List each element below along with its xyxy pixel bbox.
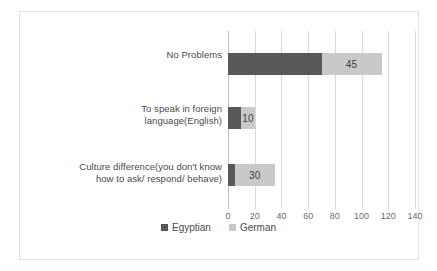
category-label-line: how to ask/ respond/ behave): [79, 173, 222, 185]
category-label-culture-difference: Culture difference(you don't know how to…: [79, 161, 222, 185]
legend-item-german[interactable]: German: [229, 222, 276, 233]
bar-segment-egyptian[interactable]: [228, 53, 322, 75]
bar-row[interactable]: 10: [228, 107, 415, 129]
plot-area: 451030: [228, 31, 415, 209]
category-axis-labels: No Problems To speak in foreign language…: [30, 31, 222, 209]
bar-value-label: 30: [249, 170, 261, 181]
x-axis-tick-label: 20: [250, 211, 260, 221]
category-label-line: To speak in foreign: [141, 103, 222, 115]
bar-row[interactable]: 45: [228, 53, 415, 75]
category-label-line: No Problems: [167, 49, 222, 61]
bar-segment-german[interactable]: 45: [322, 53, 382, 75]
bar-segment-german[interactable]: 30: [235, 164, 275, 186]
bar-segment-egyptian[interactable]: [228, 164, 235, 186]
bar-segment-german[interactable]: 10: [241, 107, 254, 129]
category-label-line: Culture difference(you don't know: [79, 161, 222, 173]
x-axis-tick-label: 0: [225, 211, 230, 221]
legend-swatch-icon: [161, 224, 168, 231]
x-axis-tick-label: 140: [407, 211, 422, 221]
chart-legend: Egyptian German: [0, 222, 437, 233]
category-label-foreign-language: To speak in foreign language(English): [141, 103, 222, 127]
x-axis-tick-label: 100: [354, 211, 369, 221]
legend-swatch-icon: [229, 224, 236, 231]
legend-label: German: [240, 222, 276, 233]
x-axis-tick-label: 40: [276, 211, 286, 221]
bar-value-label: 45: [346, 59, 358, 70]
gridline: [415, 31, 416, 209]
legend-label: Egyptian: [172, 222, 211, 233]
bar-row[interactable]: 30: [228, 164, 415, 186]
x-axis-tick-label: 80: [330, 211, 340, 221]
x-axis-tick-label: 120: [381, 211, 396, 221]
category-label-line: language(English): [141, 115, 222, 127]
x-axis-tick-label: 60: [303, 211, 313, 221]
bar-value-label: 10: [242, 113, 254, 124]
category-label-no-problems: No Problems: [167, 49, 222, 61]
legend-item-egyptian[interactable]: Egyptian: [161, 222, 211, 233]
bar-segment-egyptian[interactable]: [228, 107, 241, 129]
